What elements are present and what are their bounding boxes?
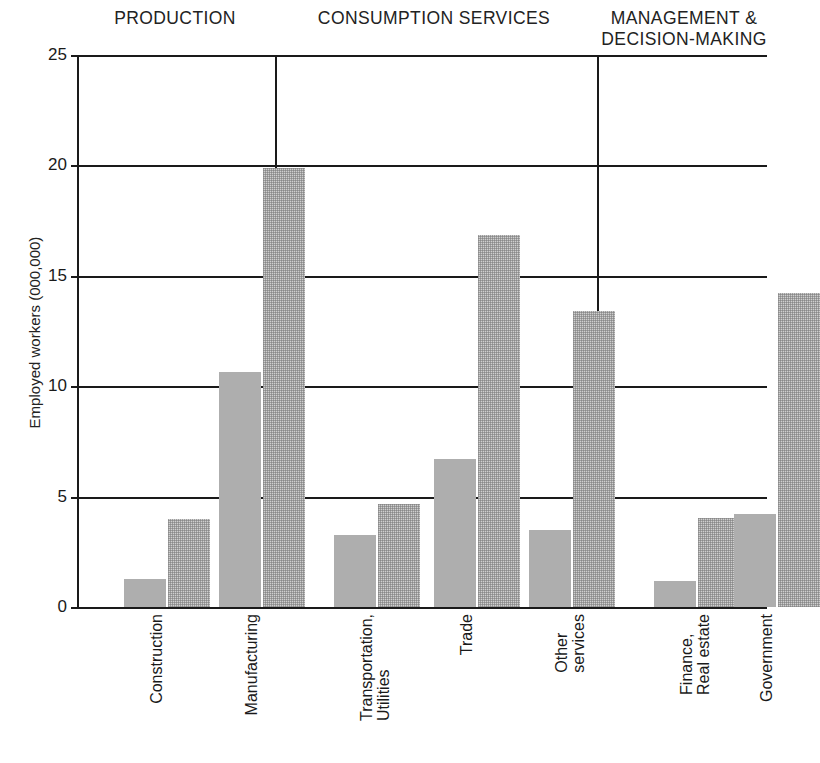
y-tick-label-5: 5: [58, 487, 67, 507]
bar-solid: [654, 581, 696, 607]
bar-solid: [334, 535, 376, 607]
y-tick-label-25: 25: [48, 45, 67, 65]
bar-solid: [219, 372, 261, 607]
gridline-5: [79, 497, 767, 499]
y-tick-mark-25: [71, 55, 79, 57]
y-tick-mark-0: [71, 607, 79, 609]
bar-stippled: [778, 293, 820, 607]
bar-stippled: [478, 235, 520, 607]
x-axis-label-5: Finance, Real estate: [678, 614, 712, 695]
bar-stippled: [168, 519, 210, 607]
bar-solid: [434, 459, 476, 607]
y-tick-mark-10: [71, 386, 79, 388]
y-tick-label-20: 20: [48, 155, 67, 175]
group-header-consumption-services: CONSUMPTION SERVICES: [273, 8, 595, 29]
y-tick-label-10: 10: [48, 376, 67, 396]
gridline-10: [79, 386, 767, 388]
x-axis-label-3: Trade: [458, 614, 475, 655]
y-tick-mark-5: [71, 497, 79, 499]
x-axis-label-4: Other services: [553, 614, 587, 673]
gridline-20: [79, 165, 767, 167]
y-axis-title: Employed workers (000,000): [26, 203, 43, 463]
y-tick-label-0: 0: [58, 597, 67, 617]
x-axis-label-0: Construction: [148, 614, 165, 704]
bar-solid: [529, 530, 571, 607]
bar-stippled: [263, 168, 305, 607]
gridline-15: [79, 276, 767, 278]
x-axis-label-6: Government: [758, 614, 775, 702]
gridline-25: [79, 55, 767, 57]
x-axis-category-labels: ConstructionManufacturingTransportation,…: [77, 614, 765, 763]
bar-stippled: [573, 311, 615, 607]
y-tick-mark-20: [71, 165, 79, 167]
bar-solid: [124, 579, 166, 607]
y-tick-mark-15: [71, 276, 79, 278]
x-axis-baseline: [79, 607, 767, 609]
x-axis-label-2: Transportation, Utilities: [358, 614, 392, 721]
group-header-management-decision-making: MANAGEMENT & DECISION-MAKING: [595, 8, 773, 50]
panel-group-headers: PRODUCTION CONSUMPTION SERVICES MANAGEME…: [0, 0, 773, 55]
group-header-production: PRODUCTION: [77, 8, 273, 29]
x-axis-label-1: Manufacturing: [243, 614, 260, 715]
bar-solid: [734, 514, 776, 607]
y-tick-label-15: 15: [48, 266, 67, 286]
plot-area: 0510152025: [77, 55, 767, 607]
bar-stippled: [378, 504, 420, 607]
